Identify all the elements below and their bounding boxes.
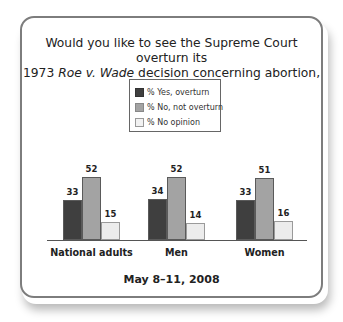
bar-value-label: 15 [101,209,121,219]
bar-value-label: 16 [274,208,294,218]
bar-women-0 [236,200,255,240]
chart-card: Would you like to see the Supreme Court … [20,16,323,298]
bar-men-0 [148,199,167,240]
bar-men-1 [167,177,186,240]
bar-national-adults-0 [63,200,82,240]
bar-value-label: 52 [167,164,187,174]
category-label: National adults [47,247,137,258]
bar-national-adults-2 [101,222,120,240]
bar-value-label: 52 [82,164,102,174]
bar-plot: 335215National adults345214Men335116Wome… [22,18,321,296]
bar-national-adults-1 [82,177,101,240]
x-axis-line [47,240,307,241]
bar-value-label: 34 [148,186,168,196]
bar-women-2 [274,221,293,240]
category-label: Women [220,247,310,258]
bar-value-label: 14 [186,210,206,220]
survey-date: May 8–11, 2008 [22,273,321,286]
bar-men-2 [186,223,205,240]
bar-women-1 [255,178,274,240]
category-label: Men [132,247,222,258]
bar-value-label: 33 [63,187,83,197]
bar-value-label: 33 [236,187,256,197]
bar-value-label: 51 [255,165,275,175]
